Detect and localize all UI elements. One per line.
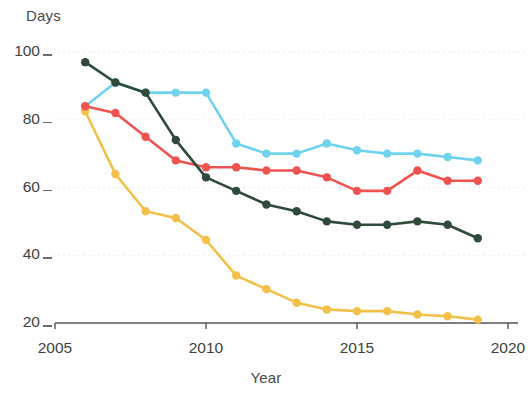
data-point [111, 170, 119, 178]
data-point [383, 307, 391, 315]
data-point [232, 139, 240, 147]
data-point [232, 163, 240, 171]
axis-lines [55, 323, 518, 329]
data-point [141, 88, 149, 96]
data-point [202, 163, 210, 171]
data-point [111, 78, 119, 86]
data-point [323, 173, 331, 181]
data-point [111, 109, 119, 117]
data-point [323, 305, 331, 313]
data-point [262, 285, 270, 293]
data-point [262, 166, 270, 174]
data-point [443, 153, 451, 161]
data-point [383, 149, 391, 157]
data-point [353, 307, 361, 315]
data-point [474, 315, 482, 323]
data-point [292, 166, 300, 174]
data-point [413, 149, 421, 157]
data-point [172, 88, 180, 96]
data-point [232, 271, 240, 279]
data-point [383, 187, 391, 195]
series-yellow-series [81, 107, 482, 324]
data-point [262, 149, 270, 157]
data-point [81, 102, 89, 110]
series-line-red-series [85, 106, 478, 191]
data-point [443, 177, 451, 185]
line-chart: Days Year 20406080100 2005201020152020 [0, 0, 532, 394]
data-point [413, 217, 421, 225]
data-point [141, 207, 149, 215]
data-point [353, 221, 361, 229]
data-point [474, 234, 482, 242]
data-point [413, 310, 421, 318]
data-point [353, 146, 361, 154]
data-point [202, 173, 210, 181]
data-point [172, 156, 180, 164]
data-point [474, 177, 482, 185]
data-point [202, 236, 210, 244]
data-point [202, 88, 210, 96]
data-point [323, 139, 331, 147]
data-point [292, 298, 300, 306]
data-point [141, 132, 149, 140]
data-point [474, 156, 482, 164]
data-point [383, 221, 391, 229]
series-line-yellow-series [85, 111, 478, 319]
series-dark-green-series [81, 58, 482, 243]
data-point [292, 207, 300, 215]
data-point [232, 187, 240, 195]
data-point [292, 149, 300, 157]
data-point [262, 200, 270, 208]
data-point [413, 166, 421, 174]
data-point [172, 136, 180, 144]
series-red-series [81, 102, 482, 195]
data-point [172, 214, 180, 222]
data-point [81, 58, 89, 66]
data-point [353, 187, 361, 195]
data-point [443, 312, 451, 320]
data-point [323, 217, 331, 225]
data-series-group [81, 58, 482, 324]
plot-area [0, 0, 532, 394]
data-point [443, 221, 451, 229]
